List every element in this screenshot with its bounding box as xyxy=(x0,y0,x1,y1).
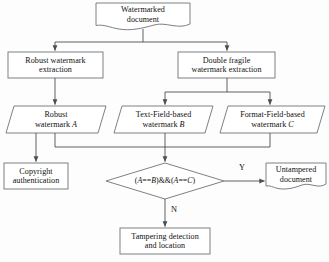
connector-document-to-bus xyxy=(55,29,227,42)
decision-shape xyxy=(106,163,224,199)
flowchart-canvas: Watermarked document Robust watermark ex… xyxy=(0,0,329,262)
tampering-detection-shape xyxy=(120,228,210,254)
copyright-authentication-shape xyxy=(4,163,68,189)
watermarked-document-shape xyxy=(96,3,190,30)
edge-label-no: N xyxy=(171,205,177,214)
double-fragile-extraction-shape xyxy=(178,52,275,78)
robust-watermark-a-shape xyxy=(6,106,106,133)
edge-label-yes: Y xyxy=(239,163,245,172)
connector-double-fragile-to-bus xyxy=(165,78,270,92)
flowchart-shapes-and-connectors xyxy=(0,0,329,262)
untampered-document-shape xyxy=(266,163,326,189)
text-field-watermark-b-shape xyxy=(114,106,213,133)
robust-extraction-shape xyxy=(8,52,103,78)
format-field-watermark-c-shape xyxy=(220,106,325,133)
